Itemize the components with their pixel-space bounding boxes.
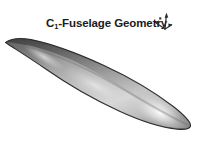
figure-panel: C1-Fuselage Geometry	[0, 0, 201, 151]
fuselage-geometry-render: C1-Fuselage Geometry	[0, 0, 201, 151]
fuselage-body	[0, 39, 193, 151]
